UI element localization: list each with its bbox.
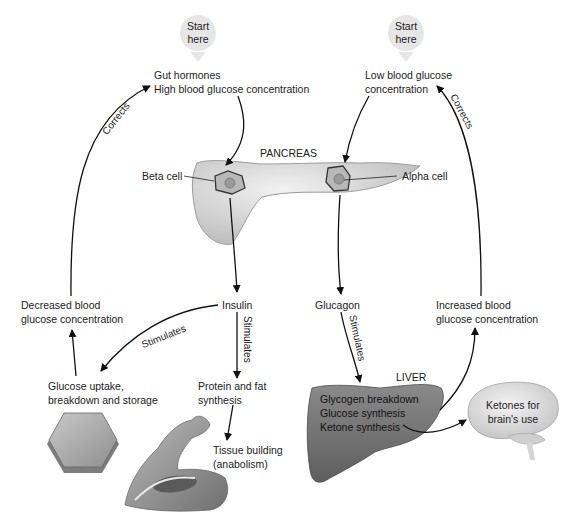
protein-synthesis-label: Protein and fat synthesis: [198, 379, 266, 407]
low-glucose-label: Low blood glucose concentration: [365, 68, 452, 96]
liver-title: LIVER: [396, 370, 426, 384]
arrow-alpha-to-glucagon: [338, 195, 341, 294]
glucose-uptake-label: Glucose uptake, breakdown and storage: [48, 379, 158, 407]
liver-functions: Glycogen breakdown Glucose synthesis Ket…: [320, 392, 419, 434]
arrow-protein-to-tissue: [227, 405, 233, 440]
high-glucose-label: Gut hormones High blood glucose concentr…: [154, 68, 309, 96]
arrow-uptake-to-decreased: [72, 330, 76, 376]
glucose-hexagon: [47, 413, 119, 473]
start-here-bubble-right: Start here: [388, 15, 424, 51]
beta-cell-label: Beta cell: [142, 169, 182, 183]
arrow-high-to-beta: [226, 96, 244, 165]
pancreas-title: PANCREAS: [260, 146, 317, 160]
start-pointer-right: [398, 52, 414, 62]
stimulates-label-protein: Stimulates: [242, 316, 253, 363]
tissue-building-label: Tissue building (anabolism): [213, 443, 283, 471]
start-pointer-left: [190, 52, 206, 62]
brain-ketones-label: Ketones for brain's use: [486, 398, 540, 426]
start-here-bubble-left: Start here: [180, 15, 216, 51]
arrow-low-to-alpha: [345, 96, 369, 162]
increased-glucose-label: Increased blood glucose concentration: [436, 298, 538, 326]
alpha-cell-label: Alpha cell: [402, 169, 448, 183]
glucagon-label: Glucagon: [315, 298, 360, 312]
decreased-glucose-label: Decreased blood glucose concentration: [21, 298, 123, 326]
insulin-label: Insulin: [222, 298, 252, 312]
arrow-liver-to-increased: [440, 328, 475, 410]
